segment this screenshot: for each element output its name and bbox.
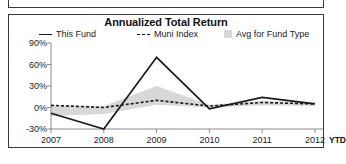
series-band-avg-for-fund-type: [51, 86, 315, 116]
legend-item-muni-index: Muni Index: [137, 29, 198, 39]
x-axis-ytd-note: YTD: [329, 135, 346, 145]
annualized-total-return-panel: Annualized Total Return This Fund Muni I…: [8, 14, 324, 148]
legend-label-this-fund: This Fund: [56, 29, 96, 39]
chart-title: Annualized Total Return: [9, 16, 323, 28]
x-axis-tick-label: 2010: [199, 135, 219, 145]
x-axis-tick-label: 2008: [94, 135, 114, 145]
legend-item-this-fund: This Fund: [39, 29, 96, 39]
x-axis-tick-label: 2007: [41, 135, 61, 145]
dashed-line-marker-icon: [137, 34, 150, 35]
legend-item-avg-for-fund-type: Avg for Fund Type: [224, 29, 309, 39]
chart-canvas: [9, 41, 325, 149]
legend-label-avg-for-fund-type: Avg for Fund Type: [236, 29, 309, 39]
x-axis-tick-label: 2012: [305, 135, 325, 145]
legend-label-muni-index: Muni Index: [154, 29, 198, 39]
x-axis-labels: 200720082009201020112012YTD: [9, 135, 325, 147]
adjacent-panel-stub: [8, 0, 324, 8]
band-swatch-icon: [224, 30, 232, 38]
series-line-this-fund: [51, 57, 315, 129]
x-axis-tick-label: 2009: [147, 135, 167, 145]
x-axis-tick-label: 2011: [253, 135, 272, 145]
solid-line-marker-icon: [39, 34, 52, 35]
plot-area: 90%60%30%0%-30% 200720082009201020112012…: [9, 41, 325, 149]
